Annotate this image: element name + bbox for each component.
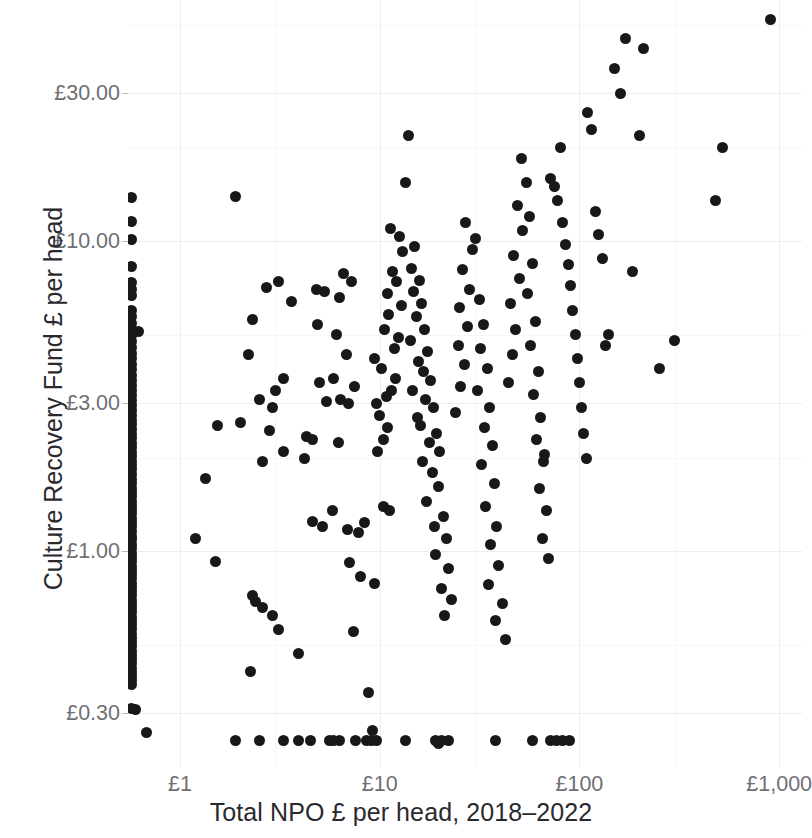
data-point [400, 735, 411, 746]
data-point [549, 181, 560, 192]
data-point [597, 253, 608, 264]
data-point [371, 735, 382, 746]
data-point [261, 282, 272, 293]
data-point [541, 505, 552, 516]
data-point [476, 459, 487, 470]
data-point [305, 735, 316, 746]
data-point [500, 634, 511, 645]
data-point [489, 478, 500, 489]
data-point [552, 195, 563, 206]
data-point [453, 340, 464, 351]
gridline-vertical [475, 0, 476, 768]
data-point [257, 602, 268, 613]
data-point [390, 373, 401, 384]
data-point [264, 425, 275, 436]
data-point [543, 553, 554, 564]
data-point [654, 363, 665, 374]
data-point [424, 437, 435, 448]
data-point [273, 624, 284, 635]
data-point [333, 437, 344, 448]
data-point [299, 453, 310, 464]
data-point [331, 329, 342, 340]
data-point [450, 407, 461, 418]
data-point [522, 288, 533, 299]
data-point [474, 294, 485, 305]
data-point [439, 610, 450, 621]
data-point [521, 177, 532, 188]
data-point [710, 195, 721, 206]
data-point [582, 107, 593, 118]
y-axis-tick-mark [122, 551, 128, 552]
data-point [379, 324, 390, 335]
data-point [572, 353, 583, 364]
gridline-horizontal [128, 93, 802, 94]
data-point [457, 264, 468, 275]
data-point [341, 349, 352, 360]
data-point [235, 417, 246, 428]
data-point [478, 319, 489, 330]
data-point [421, 496, 432, 507]
gridline-horizontal [128, 713, 802, 714]
data-point [387, 266, 398, 277]
gridline-vertical [180, 0, 181, 768]
data-point [634, 130, 645, 141]
data-point [391, 276, 402, 287]
data-point [627, 266, 638, 277]
gridline-horizontal [128, 25, 802, 26]
data-point [557, 217, 568, 228]
data-point [376, 363, 387, 374]
data-point [245, 666, 256, 677]
data-point [312, 319, 323, 330]
data-point [525, 340, 536, 351]
data-point [609, 63, 620, 74]
data-point [467, 244, 478, 255]
data-point [484, 402, 495, 413]
data-point [428, 402, 439, 413]
data-point [378, 434, 389, 445]
data-point [603, 329, 614, 340]
data-point [327, 505, 338, 516]
data-point [212, 420, 223, 431]
data-point [487, 440, 498, 451]
data-point [586, 124, 597, 135]
data-point [414, 275, 425, 286]
data-point [382, 288, 393, 299]
data-point [417, 456, 428, 467]
data-point [382, 422, 393, 433]
data-point [490, 615, 501, 626]
data-point [493, 560, 504, 571]
data-point [593, 229, 604, 240]
data-point [564, 735, 575, 746]
y-axis-tick-mark [122, 713, 128, 714]
data-point [363, 687, 374, 698]
gridline-horizontal [128, 403, 802, 404]
data-point [317, 521, 328, 532]
data-point [394, 231, 405, 242]
data-point [415, 420, 426, 431]
data-point [278, 373, 289, 384]
data-point [483, 579, 494, 590]
gridline-horizontal [128, 241, 802, 242]
data-point [615, 88, 626, 99]
data-point [397, 246, 408, 257]
data-point [343, 398, 354, 409]
data-point [321, 396, 332, 407]
data-point [409, 241, 420, 252]
data-point [765, 14, 776, 25]
data-point [505, 298, 516, 309]
data-point [560, 239, 571, 250]
data-point [485, 539, 496, 550]
data-point [503, 377, 514, 388]
data-point [278, 735, 289, 746]
data-point [406, 263, 417, 274]
data-point [307, 434, 318, 445]
data-point [490, 735, 501, 746]
data-point [407, 385, 418, 396]
data-point [273, 276, 284, 287]
data-point [348, 626, 359, 637]
data-point [346, 276, 357, 287]
gridline-horizontal [128, 645, 802, 646]
gridline-horizontal [128, 458, 802, 459]
plot-panel [128, 0, 802, 768]
